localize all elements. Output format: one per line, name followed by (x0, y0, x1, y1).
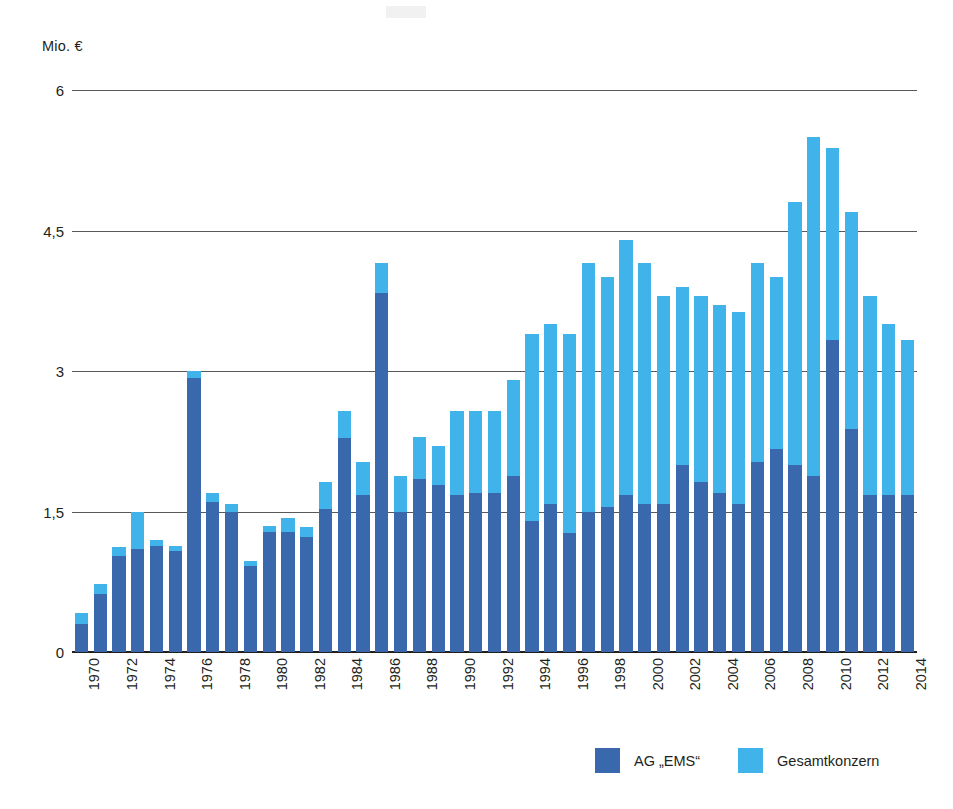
bar-2008 (788, 202, 801, 652)
bar-2011 (845, 212, 858, 652)
bar-segment-ag-ems (676, 465, 689, 652)
bar-segment-ag-ems (638, 504, 651, 652)
y-axis-tick-label: 3 (24, 364, 64, 379)
bar-segment-ag-ems (450, 495, 463, 652)
bar-segment-ag-ems (563, 533, 576, 652)
bar-1987 (394, 476, 407, 652)
x-axis-tick-label: 1988 (425, 658, 440, 690)
bar-segment-ag-ems (300, 537, 313, 652)
x-axis-tick-label: 2012 (876, 658, 891, 690)
bar-1985 (356, 462, 369, 652)
x-axis-tick-label: 1992 (501, 658, 516, 690)
bar-2002 (676, 287, 689, 652)
x-axis-tick-label: 1986 (388, 658, 403, 690)
x-axis-tick-label: 2014 (914, 658, 929, 690)
bar-2012 (863, 296, 876, 652)
y-axis-tick-label: 4,5 (24, 223, 64, 238)
bar-segment-ag-ems (901, 495, 914, 652)
bar-segment-ag-ems (882, 495, 895, 652)
bar-segment-ag-ems (713, 493, 726, 652)
legend-color-swatch (595, 748, 620, 773)
bar-segment-ag-ems (94, 594, 107, 652)
bar-segment-ag-ems (507, 476, 520, 652)
bar-segment-ag-ems (619, 495, 632, 652)
bar-segment-ag-ems (788, 465, 801, 652)
bar-2004 (713, 305, 726, 652)
x-axis-tick-label: 2010 (839, 658, 854, 690)
x-axis-tick-label: 1982 (313, 658, 328, 690)
y-axis-tick-label: 0 (24, 645, 64, 660)
bar-1973 (131, 512, 144, 653)
bar-segment-ag-ems (75, 624, 88, 652)
bar-segment-ag-ems (732, 504, 745, 652)
y-axis-tick-label: 6 (24, 83, 64, 98)
bar-segment-ag-ems (225, 512, 238, 653)
bar-segment-ag-ems (206, 502, 219, 652)
bar-2000 (638, 263, 651, 652)
bar-1988 (413, 437, 426, 652)
x-axis-tick-label: 1990 (463, 658, 478, 690)
x-axis-tick-label: 1984 (350, 658, 365, 690)
bar-2006 (751, 263, 764, 652)
bar-segment-ag-ems (657, 504, 670, 652)
legend-item: Gesamtkonzern (738, 748, 879, 773)
bar-1980 (263, 526, 276, 652)
bar-1999 (619, 240, 632, 652)
bar-segment-ag-ems (131, 549, 144, 652)
bar-segment-ag-ems (432, 485, 445, 652)
bar-segment-ag-ems (187, 378, 200, 652)
bar-segment-ag-ems (263, 532, 276, 652)
bar-segment-ag-ems (281, 532, 294, 652)
bar-1997 (582, 263, 595, 652)
bar-segment-ag-ems (375, 293, 388, 652)
x-axis-tick-label: 1976 (200, 658, 215, 690)
bar-1978 (225, 504, 238, 652)
bar-segment-ag-ems (338, 438, 351, 652)
bar-segment-ag-ems (413, 479, 426, 652)
bar-1989 (432, 446, 445, 652)
x-axis-tick-label: 2002 (688, 658, 703, 690)
bar-1974 (150, 540, 163, 652)
legend-color-swatch (738, 748, 763, 773)
x-axis-tick-label: 1978 (238, 658, 253, 690)
bar-1998 (601, 277, 614, 652)
x-axis-tick-label: 1998 (613, 658, 628, 690)
bar-segment-ag-ems (525, 521, 538, 652)
bar-segment-ag-ems (112, 556, 125, 652)
bar-1992 (488, 411, 501, 652)
x-axis-tick-label: 1994 (538, 658, 553, 690)
bar-segment-ag-ems (770, 449, 783, 652)
bar-2001 (657, 296, 670, 652)
bar-segment-ag-ems (807, 476, 820, 652)
legend-item-label: Gesamtkonzern (777, 753, 879, 769)
bar-1971 (94, 584, 107, 652)
x-axis-tick-label: 2004 (726, 658, 741, 690)
x-axis-tick-label: 2006 (763, 658, 778, 690)
x-axis-tick-label: 1996 (576, 658, 591, 690)
bar-1994 (525, 334, 538, 652)
bar-2014 (901, 340, 914, 652)
x-axis-tick-label: 2008 (801, 658, 816, 690)
bar-1970 (75, 613, 88, 652)
bar-1982 (300, 527, 313, 652)
bar-segment-ag-ems (751, 462, 764, 652)
bar-1979 (244, 561, 257, 652)
bar-segment-ag-ems (169, 551, 182, 652)
bar-segment-ag-ems (694, 482, 707, 652)
bar-1996 (563, 334, 576, 652)
page-artifact (386, 6, 426, 18)
bar-segment-ag-ems (826, 340, 839, 652)
x-axis-labels: 1970197219741976197819801982198419861988… (72, 658, 917, 728)
bar-segment-ag-ems (601, 507, 614, 652)
bar-segment-ag-ems (150, 546, 163, 652)
x-axis-tick-label: 1970 (87, 658, 102, 690)
bar-2010 (826, 148, 839, 652)
bar-1986 (375, 263, 388, 652)
y-axis-unit-label: Mio. € (42, 38, 83, 54)
bar-segment-ag-ems (394, 512, 407, 653)
bar-2009 (807, 137, 820, 652)
legend-item: AG „EMS“ (595, 748, 700, 773)
bar-segment-ag-ems (244, 566, 257, 652)
bar-2005 (732, 312, 745, 652)
bar-2007 (770, 277, 783, 652)
